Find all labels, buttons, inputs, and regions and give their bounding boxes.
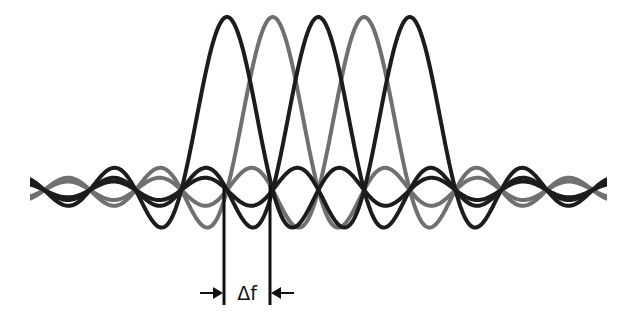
arrow-left-icon [200, 287, 223, 299]
ofdm-spectrum-diagram: Δf [0, 0, 632, 325]
subcarrier-curve-4 [25, 17, 612, 228]
delta-f-label: Δf [237, 282, 258, 304]
arrow-right-icon [271, 287, 294, 299]
subcarrier-curves [25, 17, 612, 228]
